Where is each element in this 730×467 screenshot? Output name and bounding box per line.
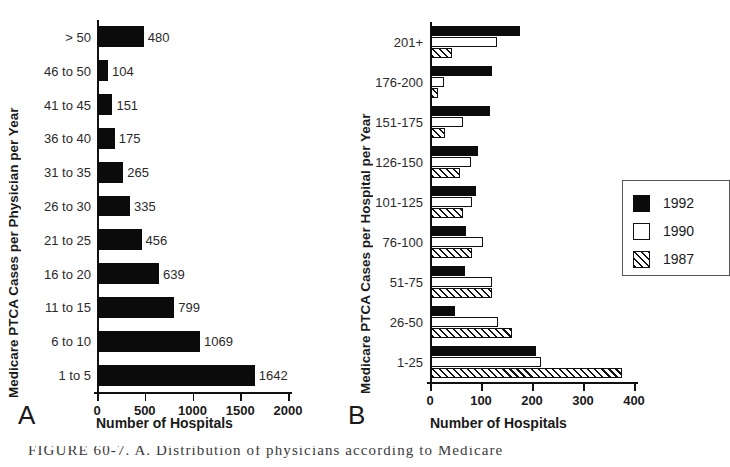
bar-1990 bbox=[431, 357, 541, 367]
bar-1990 bbox=[431, 237, 483, 247]
bar-value-label: 799 bbox=[178, 300, 200, 315]
x-axis-tick bbox=[583, 384, 585, 391]
y-axis-category-label: 51-75 bbox=[390, 275, 423, 290]
bar: 335 bbox=[98, 196, 130, 217]
bar-1987 bbox=[431, 368, 622, 378]
panel-b-x-axis-title: Number of Hospitals bbox=[430, 415, 567, 431]
bar: 1069 bbox=[98, 331, 200, 352]
x-axis-tick bbox=[193, 394, 195, 401]
y-axis-category-label: 1-25 bbox=[397, 355, 423, 370]
bar-value-label: 151 bbox=[116, 97, 138, 112]
bar-row: 31 to 35265 bbox=[97, 155, 288, 189]
bar-1992 bbox=[431, 26, 520, 36]
x-axis-tick-label: 2000 bbox=[274, 403, 303, 418]
x-axis-tick bbox=[288, 394, 290, 401]
x-axis-tick-label: 200 bbox=[521, 393, 543, 408]
bar-value-label: 335 bbox=[134, 198, 156, 213]
bar-row: 41 to 45151 bbox=[97, 88, 288, 122]
bar-1992 bbox=[431, 226, 466, 236]
bar: 104 bbox=[98, 60, 108, 81]
y-axis-category-label: 36 to 40 bbox=[44, 131, 91, 146]
legend-label-1990: 1990 bbox=[663, 223, 694, 239]
y-axis-category-label: 201+ bbox=[394, 35, 423, 50]
bar-1992 bbox=[431, 106, 490, 116]
figure-caption-text: FIGURE 60-7. A. Distribution of physicia… bbox=[28, 446, 648, 459]
bar-1992 bbox=[431, 146, 478, 156]
bar-1992 bbox=[431, 66, 492, 76]
panel-b-legend: 1992 1990 1987 bbox=[622, 180, 730, 276]
figure-caption: FIGURE 60-7. A. Distribution of physicia… bbox=[0, 446, 659, 467]
y-axis-category-label: 126-150 bbox=[375, 155, 423, 170]
y-axis-category-label: 46 to 50 bbox=[44, 63, 91, 78]
legend-item: 1990 bbox=[633, 217, 729, 245]
bar: 265 bbox=[98, 162, 123, 183]
y-axis-category-label: 176-200 bbox=[375, 75, 423, 90]
bar-1987 bbox=[431, 248, 472, 258]
bar-value-label: 456 bbox=[146, 232, 168, 247]
bar: 456 bbox=[98, 229, 142, 250]
y-axis-category-label: 11 to 15 bbox=[45, 300, 91, 315]
bar-1992 bbox=[431, 346, 536, 356]
bar-value-label: 265 bbox=[127, 165, 149, 180]
x-axis-tick bbox=[145, 394, 147, 401]
x-axis-tick-label: 100 bbox=[470, 393, 492, 408]
bar-1990 bbox=[431, 277, 492, 287]
legend-swatch-1992 bbox=[633, 195, 650, 212]
panel-b-letter: B bbox=[348, 400, 365, 431]
bar-1992 bbox=[431, 306, 455, 316]
bar: 799 bbox=[98, 297, 174, 318]
x-axis-tick bbox=[532, 384, 534, 391]
bar-1987 bbox=[431, 328, 512, 338]
panel-a: Medicare PTCA Cases per Physician per Ye… bbox=[0, 0, 330, 440]
bar-group: 1-25 bbox=[430, 342, 634, 382]
panel-a-plot-area: > 5048046 to 5010441 to 4515136 to 40175… bbox=[97, 20, 288, 392]
x-axis-tick bbox=[240, 394, 242, 401]
bar-value-label: 175 bbox=[119, 131, 141, 146]
bar-1990 bbox=[431, 77, 444, 87]
bar-group: 151-175 bbox=[430, 102, 634, 142]
y-axis-category-label: > 50 bbox=[65, 29, 91, 44]
y-axis-category-label: 31 to 35 bbox=[44, 165, 91, 180]
bar-group: 26-50 bbox=[430, 302, 634, 342]
bar-value-label: 639 bbox=[163, 266, 185, 281]
bar-value-label: 104 bbox=[112, 63, 134, 78]
y-axis-category-label: 76-100 bbox=[383, 235, 423, 250]
x-axis-tick bbox=[97, 394, 99, 401]
bar-1992 bbox=[431, 186, 476, 196]
bar: 1642 bbox=[98, 365, 255, 386]
bar-1990 bbox=[431, 117, 463, 127]
bar-1987 bbox=[431, 288, 492, 298]
bar: 151 bbox=[98, 94, 112, 115]
bar-1990 bbox=[431, 317, 498, 327]
y-axis-category-label: 6 to 10 bbox=[51, 334, 91, 349]
y-axis-category-label: 21 to 25 bbox=[44, 232, 91, 247]
bar-value-label: 1069 bbox=[204, 334, 233, 349]
x-axis-tick-label: 300 bbox=[572, 393, 594, 408]
legend-swatch-1987 bbox=[633, 251, 650, 268]
bar-1992 bbox=[431, 266, 465, 276]
panel-a-y-axis-title: Medicare PTCA Cases per Physician per Ye… bbox=[6, 18, 21, 398]
legend-item: 1987 bbox=[633, 245, 729, 273]
bar-group: 101-125 bbox=[430, 182, 634, 222]
panel-a-letter: A bbox=[18, 400, 35, 431]
panel-b: Medicare PTCA Cases per Hospital per Yea… bbox=[330, 0, 659, 440]
x-axis-tick bbox=[430, 384, 432, 391]
bar-row: 46 to 50104 bbox=[97, 54, 288, 88]
bar-1990 bbox=[431, 157, 471, 167]
bar-1990 bbox=[431, 197, 472, 207]
y-axis-category-label: 41 to 45 bbox=[44, 97, 91, 112]
bar-1987 bbox=[431, 48, 452, 58]
bar-group: 76-100 bbox=[430, 222, 634, 262]
bar-row: 11 to 15799 bbox=[97, 291, 288, 325]
panel-a-x-axis-title: Number of Hospitals bbox=[96, 415, 233, 431]
bar-1987 bbox=[431, 168, 460, 178]
bar-row: 16 to 20639 bbox=[97, 257, 288, 291]
legend-swatch-1990 bbox=[633, 223, 650, 240]
bar-value-label: 480 bbox=[148, 29, 170, 44]
bar-1987 bbox=[431, 208, 463, 218]
x-axis-tick bbox=[634, 384, 636, 391]
bar-row: > 50480 bbox=[97, 20, 288, 54]
bar-group: 176-200 bbox=[430, 62, 634, 102]
bar-group: 51-75 bbox=[430, 262, 634, 302]
x-axis-tick bbox=[481, 384, 483, 391]
